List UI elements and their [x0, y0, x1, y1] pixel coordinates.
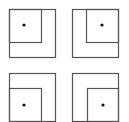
inner-square — [10, 10, 42, 43]
dot-marker — [100, 23, 103, 26]
dot-marker — [101, 103, 104, 106]
outer-square — [73, 10, 119, 58]
dot-marker — [22, 103, 25, 106]
outer-square — [10, 74, 56, 122]
panel-top-right — [73, 10, 119, 58]
outer-square — [10, 10, 56, 58]
panel-bottom-right — [73, 74, 119, 122]
outer-square — [73, 74, 119, 122]
panel-bottom-left — [10, 74, 56, 122]
dot-marker — [22, 23, 25, 26]
nested-squares-diagram — [0, 0, 129, 122]
panel-top-left — [10, 10, 56, 58]
